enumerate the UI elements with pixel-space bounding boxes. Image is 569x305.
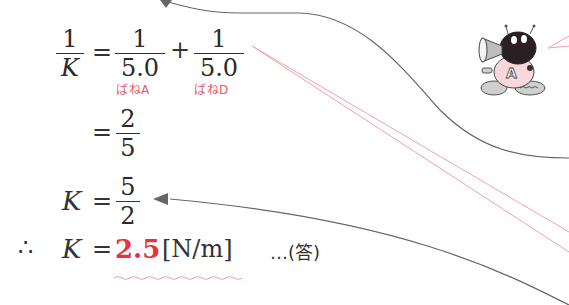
arrowhead-bottom-icon (153, 193, 168, 205)
fraction-five-halves: 5 2 (116, 174, 140, 229)
answer-value: 2.5 (115, 234, 160, 264)
svg-text:A: A (506, 65, 517, 81)
variable-k: K (62, 186, 81, 216)
plus-sign: + (170, 36, 190, 64)
answer-unit: [N/m] (162, 235, 233, 263)
equals-sign: = (92, 118, 112, 146)
fraction-one-over-k: 1 K (56, 26, 84, 81)
equals-sign: = (92, 235, 112, 263)
variable-k: K (62, 234, 81, 264)
fraction-two-fifths: 2 5 (116, 106, 140, 161)
label-spring-d: ばねD (194, 80, 229, 97)
label-spring-a: ばねA (116, 80, 150, 97)
arrowhead-top-icon (160, 0, 172, 8)
fraction-term1: 1 5.0 (115, 26, 165, 81)
answer-marker: …(答) (270, 238, 320, 264)
wavy-underline (114, 275, 242, 281)
robot-mascot-icon: A (478, 24, 550, 104)
equals-sign: = (92, 187, 112, 215)
therefore-symbol: ∴ (18, 234, 33, 262)
equals-sign: = (92, 38, 112, 66)
fraction-term2: 1 5.0 (194, 26, 244, 81)
